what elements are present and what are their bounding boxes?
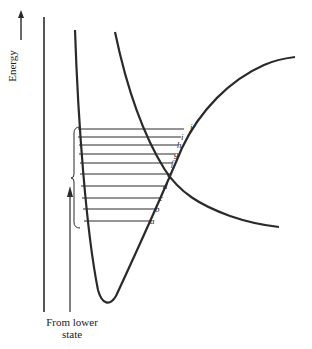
level-label-g: g — [174, 149, 179, 159]
level-label-i: i — [181, 132, 184, 142]
excitation-arrow-head-icon — [67, 186, 73, 197]
level-label-j: j — [190, 122, 193, 132]
energy-axis-label: Energy — [6, 50, 18, 82]
level-label-b: b — [155, 204, 160, 214]
brace-icon — [71, 127, 80, 228]
energy-arrow-icon — [15, 10, 27, 40]
source-state-label: From lower state — [44, 316, 100, 340]
level-label-f: f — [171, 158, 174, 168]
potential-energy-diagram: Energy From lower state a b c d e f g h … — [0, 0, 312, 349]
level-label-c: c — [159, 193, 163, 203]
level-label-e: e — [167, 169, 171, 179]
diagram-canvas — [0, 0, 312, 349]
level-label-a: a — [150, 216, 155, 226]
level-label-d: d — [163, 181, 168, 191]
bound-potential-curve — [75, 30, 295, 303]
